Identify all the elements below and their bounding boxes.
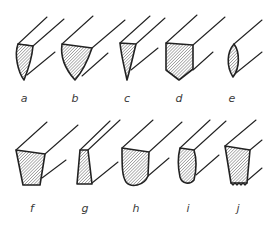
section-g <box>77 120 120 184</box>
section-c <box>120 16 165 80</box>
label-b: b <box>72 93 79 104</box>
label-a: a <box>21 93 28 104</box>
bar-sections-diagram <box>0 0 278 225</box>
section-a <box>16 17 64 80</box>
label-h: h <box>133 203 140 214</box>
label-f: f <box>30 203 34 214</box>
section-h <box>122 120 182 185</box>
label-j: j <box>236 203 239 214</box>
label-g: g <box>82 203 89 214</box>
section-d <box>166 15 225 80</box>
label-e: e <box>229 93 236 104</box>
section-i <box>179 120 227 183</box>
section-e <box>228 20 262 77</box>
label-c: c <box>124 93 130 104</box>
section-f <box>16 122 78 185</box>
section-j <box>225 120 262 185</box>
label-i: i <box>186 203 189 214</box>
section-b <box>62 16 125 80</box>
label-d: d <box>176 93 183 104</box>
